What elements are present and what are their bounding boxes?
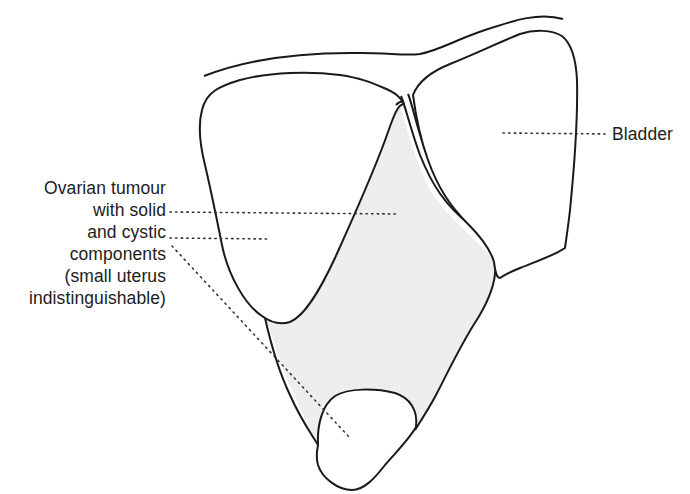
tumour-label-line-5: (small uterus — [29, 265, 166, 287]
leader-line-cystic-upper — [170, 238, 270, 239]
tumour-label-line-1: Ovarian tumour — [29, 177, 166, 199]
tumour-label-line-6: indistinguishable) — [29, 287, 166, 309]
bladder-label: Bladder — [612, 123, 673, 145]
tumour-label-line-3: and cystic — [29, 221, 166, 243]
tumour-label-line-2: with solid — [29, 199, 166, 221]
tumour-label: Ovarian tumour with solid and cystic com… — [29, 177, 166, 309]
lower-cyst-outline — [317, 390, 416, 490]
tumour-label-line-4: components — [29, 243, 166, 265]
